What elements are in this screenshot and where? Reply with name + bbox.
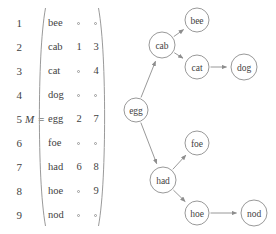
- matrix-cell-nil: [73, 65, 85, 77]
- matrix-row-index: 7: [0, 161, 22, 173]
- matrix-cell-word: nod: [48, 209, 72, 221]
- graph-edge-egg-to-cab: [141, 61, 155, 97]
- matrix-cell-word: egg: [48, 113, 72, 125]
- graph-node-label: cab: [155, 41, 168, 51]
- matrix-cell-word: cab: [48, 41, 72, 53]
- matrix-cell-nil: [73, 185, 85, 197]
- matrix-cell-word: bee: [48, 17, 72, 29]
- matrix-row: dog: [48, 89, 100, 101]
- matrix-cell-nil: [73, 89, 85, 101]
- matrix-cell-word: dog: [48, 89, 72, 101]
- graph-figure: eggcabbeecatdoghadfoehoenod: [118, 0, 276, 234]
- matrix-cell-nil: [73, 137, 85, 149]
- matrix-cell-nil: [73, 209, 85, 221]
- matrix-cell-nil: [90, 209, 102, 221]
- matrix-row: egg 2 7: [48, 113, 100, 125]
- matrix-cell-left: 2: [73, 113, 85, 125]
- graph-node-label: hoe: [190, 209, 204, 219]
- matrix-row: cab 1 3: [48, 41, 100, 53]
- graph-node-cat[interactable]: cat: [185, 55, 209, 79]
- matrix-row: bee: [48, 17, 100, 29]
- matrix-cell-nil: [90, 17, 102, 29]
- graph-edge-cab-to-cat: [174, 53, 183, 59]
- graph-node-label: cat: [191, 63, 202, 73]
- graph-node-cab[interactable]: cab: [149, 32, 175, 58]
- matrix-cell-right: 4: [90, 65, 102, 77]
- matrix-cell-left: 6: [73, 161, 85, 173]
- matrix-figure: 1 2 3 4 5 6 7 8 9 M = bee cab 1 3 cat 4 …: [0, 0, 136, 234]
- graph-node-label: foe: [191, 139, 203, 149]
- matrix-row-index: 1: [0, 17, 22, 29]
- matrix-left-bracket: [38, 7, 47, 227]
- matrix-row-index: 5: [0, 113, 22, 125]
- graph-node-had[interactable]: had: [150, 167, 176, 193]
- graph-edge-cab-to-bee: [174, 30, 184, 37]
- graph-node-egg[interactable]: egg: [124, 98, 148, 122]
- matrix-cell-right: 9: [90, 185, 102, 197]
- graph-nodes: eggcabbeecatdoghadfoehoenod: [124, 8, 267, 226]
- matrix-cell-nil: [90, 137, 102, 149]
- matrix-row: cat 4: [48, 65, 100, 77]
- matrix-cell-nil: [73, 17, 85, 29]
- graph-node-dog[interactable]: dog: [231, 54, 257, 80]
- graph-edge-egg-to-had: [141, 123, 157, 164]
- graph-node-label: bee: [190, 16, 203, 26]
- matrix-cell-word: foe: [48, 137, 72, 149]
- matrix-cell-right: 7: [90, 113, 102, 125]
- matrix-cell-word: had: [48, 161, 72, 173]
- graph-edge-had-to-hoe: [173, 190, 185, 201]
- matrix-row: had 6 8: [48, 161, 100, 173]
- matrix-cell-right: 3: [90, 41, 102, 53]
- matrix-cell-nil: [90, 89, 102, 101]
- matrix-row-index: 4: [0, 89, 22, 101]
- graph-node-label: nod: [247, 209, 262, 219]
- graph-node-label: egg: [129, 106, 143, 116]
- matrix-cell-right: 8: [90, 161, 102, 173]
- matrix-cell-left: 1: [73, 41, 85, 53]
- graph-node-label: had: [156, 176, 170, 186]
- matrix-row: hoe 9: [48, 185, 100, 197]
- matrix-cell-word: cat: [48, 65, 72, 77]
- graph-node-foe[interactable]: foe: [185, 131, 209, 155]
- matrix-row: nod: [48, 209, 100, 221]
- graph-node-hoe[interactable]: hoe: [185, 201, 209, 225]
- matrix-row-index: 6: [0, 137, 22, 149]
- matrix-row-index: 3: [0, 65, 22, 77]
- matrix-row-index: 8: [0, 185, 22, 197]
- matrix-row: foe: [48, 137, 100, 149]
- matrix-row-index: 2: [0, 41, 22, 53]
- graph-node-nod[interactable]: nod: [241, 200, 267, 226]
- graph-edge-had-to-foe: [173, 155, 186, 169]
- graph-node-bee[interactable]: bee: [185, 8, 209, 32]
- matrix-row-index: 9: [0, 209, 22, 221]
- graph-node-label: dog: [237, 63, 252, 73]
- matrix-cell-word: hoe: [48, 185, 72, 197]
